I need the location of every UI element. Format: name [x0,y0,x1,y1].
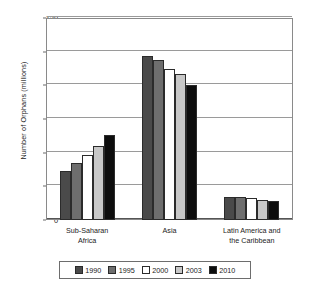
legend-label: 1990 [85,266,101,275]
y-axis-title: Number of Orphans (millions) [19,26,28,196]
legend-swatch-icon [142,266,150,274]
legend-item-2003[interactable]: 2003 [175,266,202,275]
x-axis-label-1: Sub-SaharanAfrica [46,226,128,245]
x-label-line: the Caribbean [211,236,293,246]
gridline-40 [47,151,292,152]
gridline-60 [47,117,292,118]
legend-label: 2003 [186,266,202,275]
legend-swatch-icon [209,266,217,274]
gridline-20 [47,184,292,185]
gridline-80 [47,83,292,84]
plot-area [46,18,293,220]
legend-swatch-icon [108,266,116,274]
x-label-line: Sub-Saharan [46,226,128,236]
legend-swatch-icon [75,266,83,274]
legend-item-1990[interactable]: 1990 [75,266,102,275]
legend-swatch-icon [175,266,183,274]
gridline-100 [47,50,292,51]
legend-item-2010[interactable]: 2010 [209,266,236,275]
gridline-120 [47,16,292,17]
x-label-line: Africa [46,236,128,246]
legend-item-2000[interactable]: 2000 [142,266,169,275]
x-axis-label-2: Asia [128,226,210,236]
x-label-line: Asia [128,226,210,236]
legend-label: 1995 [119,266,135,275]
legend-item-1995[interactable]: 1995 [108,266,135,275]
x-label-line: Latin America and [211,226,293,236]
legend-label: 2000 [152,266,168,275]
x-axis-label-3: Latin America andthe Caribbean [211,226,293,245]
legend-label: 2010 [219,266,235,275]
x-axis-baseline [47,218,292,219]
orphans-bar-chart: Number of Orphans (millions) 02040608010… [0,0,309,293]
legend: 19901995200020032010 [59,261,251,279]
